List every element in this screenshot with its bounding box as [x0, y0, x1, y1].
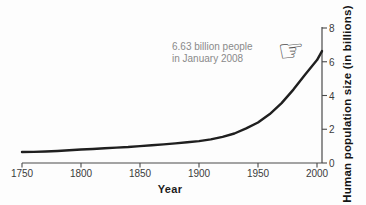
- x-tick-label: 1750: [11, 168, 33, 179]
- x-tick-label: 1950: [247, 168, 269, 179]
- x-tick-label: 1800: [70, 168, 92, 179]
- pointing-hand-icon: ☞: [277, 35, 307, 68]
- population-growth-figure: 175018001850190019502000 02468 Year Huma…: [0, 0, 366, 205]
- x-tick-label: 2000: [306, 168, 328, 179]
- y-tick-label: 4: [329, 90, 335, 101]
- annotation-line-1: 6.63 billion people: [172, 41, 253, 53]
- x-tick-label: 1850: [129, 168, 151, 179]
- annotation-callout: 6.63 billion people in January 2008: [172, 41, 253, 65]
- population-curve: [22, 51, 322, 152]
- annotation-line-2: in January 2008: [172, 53, 253, 65]
- y-tick-label: 8: [329, 23, 335, 34]
- y-tick-label: 2: [329, 124, 335, 135]
- x-tick-label: 1900: [188, 168, 210, 179]
- x-axis-label: Year: [158, 183, 182, 195]
- y-tick-label: 6: [329, 56, 335, 67]
- y-tick-label: 0: [329, 158, 335, 169]
- y-axis-label: Human population size (in billions): [341, 5, 353, 202]
